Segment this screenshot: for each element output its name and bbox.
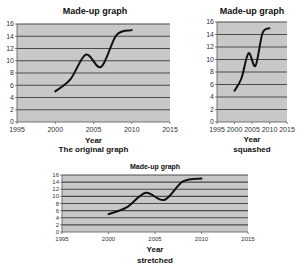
plot-area: 024681012141619952000200520102015 bbox=[0, 0, 301, 267]
x-tick-label: 2005 bbox=[148, 236, 162, 242]
x-tick-label: 1995 bbox=[55, 236, 69, 242]
y-tick-label: 6 bbox=[56, 208, 60, 214]
x-tick-label: 2015 bbox=[241, 236, 255, 242]
y-tick-label: 8 bbox=[56, 201, 60, 207]
y-tick-label: 14 bbox=[52, 179, 59, 185]
y-tick-label: 16 bbox=[52, 172, 59, 178]
y-tick-label: 12 bbox=[52, 186, 59, 192]
y-tick-label: 2 bbox=[56, 222, 60, 228]
chart-caption: stretched bbox=[95, 256, 215, 265]
x-axis-label: Year bbox=[105, 245, 205, 254]
y-tick-label: 10 bbox=[52, 193, 59, 199]
x-tick-label: 2010 bbox=[195, 236, 209, 242]
y-tick-label: 4 bbox=[56, 215, 60, 221]
y-tick-label: 0 bbox=[56, 229, 60, 235]
x-tick-label: 2000 bbox=[102, 236, 116, 242]
